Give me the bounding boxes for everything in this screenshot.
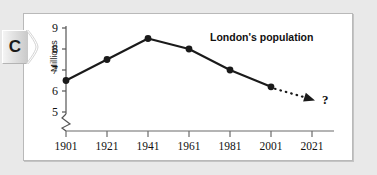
- x-axis-ticks: [66, 131, 312, 137]
- section-tab-c[interactable]: C: [2, 30, 40, 64]
- data-point-1921: [104, 56, 111, 63]
- x-tick-label-1981: 1981: [219, 140, 242, 152]
- x-tick-label-1941: 1941: [137, 140, 160, 152]
- x-tick-label-2001: 2001: [260, 140, 283, 152]
- chart-panel: London's population Millions 9 8 7 6: [23, 13, 353, 161]
- y-tick-label-9: 9: [52, 21, 58, 35]
- data-point-2001: [268, 83, 275, 90]
- projection-arrowhead-icon: [303, 93, 315, 102]
- y-tick-label-7: 7: [52, 63, 58, 77]
- x-tick-label-2021: 2021: [301, 140, 324, 152]
- chevron-right-icon: [26, 30, 40, 64]
- y-axis-break-icon: [62, 114, 70, 131]
- data-point-1941: [145, 35, 152, 42]
- section-tab-letter: C: [2, 30, 28, 64]
- y-tick-label-5: 5: [52, 105, 58, 119]
- data-line: [66, 39, 271, 87]
- data-point-1981: [227, 67, 234, 74]
- x-tick-label-1901: 1901: [55, 140, 78, 152]
- y-tick-label-6: 6: [52, 84, 58, 98]
- projection-dotted-line: [275, 89, 306, 98]
- x-tick-label-1921: 1921: [96, 140, 119, 152]
- x-tick-label-1961: 1961: [178, 140, 201, 152]
- data-point-1901: [63, 77, 70, 84]
- y-tick-label-8: 8: [52, 42, 58, 56]
- screenshot-root: C London's population Millions: [0, 0, 377, 175]
- line-chart: 9 8 7 6 5 1901 1921 1941 1961 1981 2001 …: [24, 14, 354, 162]
- data-point-1961: [186, 46, 193, 53]
- projection-question-mark: ?: [322, 92, 329, 107]
